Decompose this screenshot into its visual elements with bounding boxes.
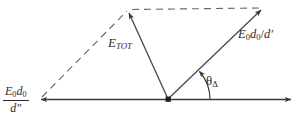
label-e0d0-over-dprime: E0d0/d′ xyxy=(238,28,273,42)
fraction: E0d0 d″ xyxy=(3,85,29,114)
label-e-tot-subscript: TOT xyxy=(116,41,132,51)
vector-diagram: ETOT E0d0/d′ θΔ E0d0 d″ xyxy=(0,0,299,128)
construction-line-top xyxy=(132,8,259,10)
label-e0d0-prime: ′ xyxy=(270,27,273,41)
label-e0d0-over-ddprime: E0d0 d″ xyxy=(3,85,29,114)
label-e-tot: ETOT xyxy=(108,36,132,51)
label-theta-subscript: Δ xyxy=(212,79,218,89)
fraction-numerator: E0d0 xyxy=(3,85,29,101)
resultant-vector xyxy=(129,13,168,99)
label-theta-delta: θΔ xyxy=(206,74,218,89)
construction-line-left xyxy=(42,11,127,97)
origin-point xyxy=(166,97,171,102)
fraction-denominator: d″ xyxy=(3,101,29,114)
fraction-den-prime: ″ xyxy=(16,101,21,115)
fraction-num-sub2: 0 xyxy=(22,90,26,99)
label-e-tot-base: E xyxy=(108,35,116,50)
vector-diagram-canvas xyxy=(0,0,299,128)
label-e0d0-base1: E xyxy=(238,27,246,41)
